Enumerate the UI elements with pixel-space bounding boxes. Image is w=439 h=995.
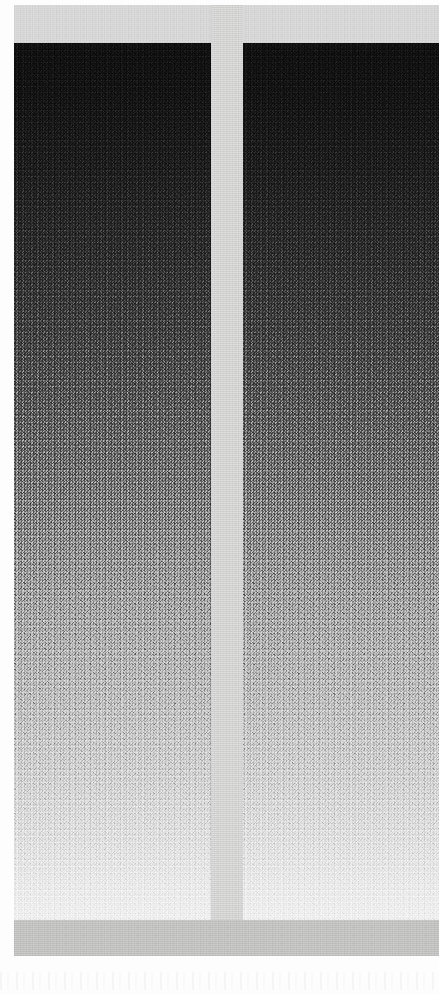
panel-left-label: Left gradient panel (14, 43, 15, 44)
halftone-grain-layer (243, 43, 439, 920)
scanned-page: Left gradient panel Right gradient panel… (0, 0, 439, 995)
gradient-panel-left: Left gradient panel (14, 43, 211, 920)
paper-texture (211, 5, 243, 956)
scan-noise-layer (14, 43, 211, 920)
bottom-margin-band (14, 920, 439, 956)
page-title: Grayscale Gradient Plate (0, 0, 1, 1)
dither-grain-layer (14, 43, 211, 920)
dither-grain-layer (243, 43, 439, 920)
center-divider (211, 5, 243, 956)
halftone-grain-layer (14, 43, 211, 920)
scan-noise-layer (243, 43, 439, 920)
gradient-panel-right: Right gradient panel (243, 43, 439, 920)
gradient-plate-frame: Left gradient panel Right gradient panel (14, 5, 439, 956)
scan-artifact-streaks (0, 972, 439, 990)
panel-right-label: Right gradient panel (243, 43, 244, 44)
paper-texture (14, 920, 439, 956)
